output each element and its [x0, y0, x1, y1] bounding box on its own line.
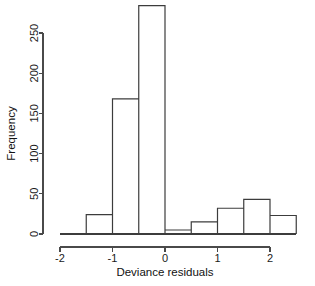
- x-axis-title: Deviance residuals: [116, 266, 213, 278]
- plot-canvas: 050100150200250Frequency-2-1012Deviance …: [0, 0, 315, 286]
- x-axis-tick-label: 1: [214, 252, 220, 264]
- x-axis-tick-label: -1: [108, 252, 118, 264]
- x-axis-tick-label: -2: [55, 252, 65, 264]
- histogram-plot: 050100150200250Frequency-2-1012Deviance …: [0, 0, 315, 286]
- y-axis-tick-label: 100: [28, 144, 40, 162]
- x-axis-tick-label: 0: [162, 252, 168, 264]
- y-axis-tick-label: 150: [28, 104, 40, 122]
- histogram-bars: [60, 6, 296, 234]
- y-axis-tick-label: 200: [28, 64, 40, 82]
- y-axis-tick-label: 250: [28, 24, 40, 42]
- y-axis-title: Frequency: [5, 106, 17, 161]
- x-axis-tick-label: 2: [267, 252, 273, 264]
- y-axis-tick-label: 0: [28, 231, 40, 237]
- y-axis-tick-label: 50: [28, 188, 40, 200]
